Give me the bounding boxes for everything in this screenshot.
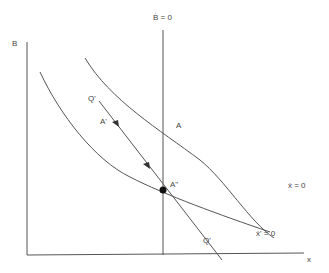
arrow-icon (112, 120, 119, 127)
x-axis (27, 253, 304, 255)
x-dot-prime-zero-curve (40, 72, 270, 232)
x-axis-label: x (307, 256, 311, 264)
outer-curve-label: ẋ = 0 (288, 182, 306, 190)
vertical-line-label: Ḃ = 0 (153, 14, 172, 22)
equilibrium-point-a-double-prime (160, 187, 167, 194)
point-a-double-prime-label: A'' (170, 181, 178, 189)
path-start-label: Q' (88, 95, 96, 103)
phase-diagram (0, 0, 329, 273)
path-end-label: Q' (203, 237, 211, 245)
point-a-prime-label: A' (100, 118, 107, 126)
inner-curve-label: ẋ' = 0 (256, 230, 275, 238)
y-axis-label: B (12, 40, 17, 48)
x-dot-zero-curve (85, 58, 274, 238)
point-a-label: A (176, 122, 181, 130)
arrow-icon (143, 162, 150, 169)
